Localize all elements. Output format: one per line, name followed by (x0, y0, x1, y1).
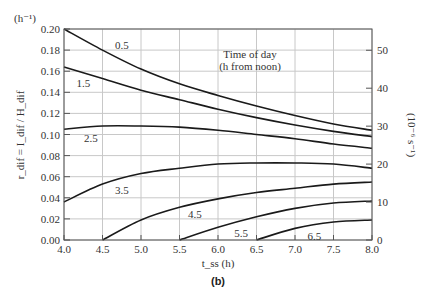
y-tick-label: 0.20 (41, 23, 61, 35)
y-axis-label-right: (10⁻⁶ s⁻¹) (405, 113, 418, 157)
curve-labels: 0.51.52.53.54.55.56.5 (76, 39, 321, 242)
x-tick-label: 6.5 (250, 243, 264, 255)
y-right-tick-label: 10 (377, 196, 389, 208)
x-tick-label: 6.0 (211, 243, 225, 255)
y-right-tick-label: 50 (377, 44, 389, 56)
annotation-line-2: (h from noon) (219, 60, 281, 73)
curve-label: 1.5 (76, 77, 90, 89)
x-axis-label: t_ss (h) (202, 257, 235, 270)
x-tick-label: 7.5 (327, 243, 341, 255)
y-right-tick-label: 0 (377, 234, 383, 246)
y-tick-label: 0.06 (41, 171, 61, 183)
y-axis-label-left: r_dif = I_dif / H_dif (14, 90, 26, 179)
y-tick-label: 0.00 (41, 234, 61, 246)
x-tick-label: 5.5 (173, 243, 187, 255)
y-unit-label: (h⁻¹) (14, 12, 36, 25)
curve-label: 5.5 (234, 227, 248, 239)
curve-label: 6.5 (307, 230, 321, 242)
y-tick-label: 0.16 (41, 65, 61, 77)
x-tick-label: 5.0 (134, 243, 148, 255)
curve-label: 4.5 (188, 208, 202, 220)
y-tick-label: 0.12 (41, 107, 60, 119)
y-tick-label: 0.08 (41, 150, 61, 162)
y-right-tick-label: 30 (377, 120, 389, 132)
y-tick-label: 0.02 (41, 213, 60, 225)
curve-label: 0.5 (115, 39, 129, 51)
chart-figure: 4.04.55.05.56.06.57.07.58.0 0.000.020.04… (0, 0, 421, 301)
y-tick-label: 0.14 (41, 86, 61, 98)
y-right-tick-label: 40 (377, 82, 389, 94)
panel-label: (b) (211, 275, 225, 287)
x-tick-label: 7.0 (288, 243, 302, 255)
y-tick-label: 0.10 (41, 129, 61, 141)
y-axis-ticks-right: 01020304050 (366, 44, 389, 246)
y-right-tick-label: 20 (377, 158, 389, 170)
curve-label: 3.5 (115, 184, 129, 196)
curve-label: 2.5 (84, 132, 98, 144)
grid-lines (64, 29, 372, 240)
annotation-line-1: Time of day (223, 48, 277, 60)
y-axis-ticks-left: 0.000.020.040.060.080.100.120.140.160.18… (41, 23, 70, 246)
y-tick-label: 0.04 (41, 192, 61, 204)
x-tick-label: 4.5 (96, 243, 110, 255)
y-tick-label: 0.18 (41, 44, 61, 56)
